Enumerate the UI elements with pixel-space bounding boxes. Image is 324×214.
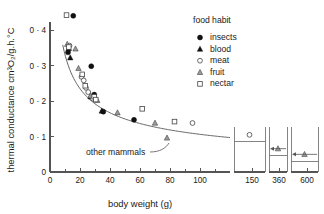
half-triangle-icon [197, 69, 202, 74]
x-tick-label: 100 [193, 176, 207, 185]
curve-annotation-label: other mammals [86, 147, 145, 157]
x-tick-label: 40 [105, 176, 115, 185]
data-point-fruit [73, 46, 78, 51]
data-point-blood [68, 55, 73, 60]
chart-figure: 02040608010000 · 10 · 20 · 30 · 4body we… [0, 0, 324, 214]
data-point-fruit [164, 135, 169, 140]
tick-labels-group: 02040608010000 · 10 · 20 · 30 · 4body we… [5, 26, 314, 209]
y-tick-label: 0 · 2 [30, 97, 47, 106]
data-point-fruit [115, 110, 120, 115]
y-tick-label: 0 · 1 [30, 133, 47, 142]
x-tick-label-broken: 600 [300, 176, 314, 185]
data-point-nectar [80, 72, 85, 77]
left-arrow-head [292, 152, 296, 156]
y-tick-label: 0 [41, 168, 46, 177]
legend-label-fruit: fruit [210, 67, 225, 77]
filled-triangle-icon [197, 46, 202, 51]
data-point-nectar [66, 45, 71, 50]
filled-circle-icon [198, 35, 203, 40]
y-tick-label: 0 · 4 [30, 26, 47, 35]
legend-label-meat: meat [210, 55, 230, 65]
data-point-broken-150 [247, 132, 252, 137]
data-point-insects [89, 64, 94, 69]
x-tick-label-broken: 150 [245, 176, 259, 185]
y-axis-title: thermal conductance cm³O₂/g.h.°C [5, 27, 16, 172]
left-arrow-head [270, 147, 274, 151]
open-square-icon [198, 82, 203, 87]
open-circle-icon [198, 58, 203, 63]
x-tick-label-broken: 360 [272, 176, 286, 185]
x-tick-label: 80 [165, 176, 175, 185]
legend-title: food habit [193, 15, 231, 25]
y-tick-label: 0 · 3 [30, 62, 47, 71]
x-axis-title: body weight (g) [108, 198, 172, 209]
annotation-group: other mammals [86, 143, 169, 157]
data-points-group [64, 13, 195, 140]
data-point-nectar [64, 13, 69, 18]
data-point-nectar [93, 97, 98, 102]
legend-group: food habitinsectsbloodmeatfruitnectar [193, 15, 237, 88]
x-tick-label: 0 [48, 176, 53, 185]
data-point-meat [81, 78, 86, 83]
legend-label-nectar: nectar [210, 78, 234, 88]
legend-label-insects: insects [210, 32, 237, 42]
data-point-nectar [83, 83, 88, 88]
scatter-plot: 02040608010000 · 10 · 20 · 30 · 4body we… [0, 0, 324, 214]
data-point-fruit [152, 120, 157, 125]
data-point-nectar [172, 119, 177, 124]
data-point-insects [132, 117, 137, 122]
curve-annotation-leader [150, 143, 169, 152]
broken-axis-panels-group [234, 127, 318, 172]
data-point-insects [71, 13, 76, 18]
x-tick-label: 60 [135, 176, 145, 185]
legend-label-blood: blood [210, 44, 231, 54]
data-point-meat [190, 121, 195, 126]
data-point-nectar [140, 107, 145, 112]
data-point-fruit [76, 65, 81, 70]
x-tick-label: 20 [75, 176, 85, 185]
